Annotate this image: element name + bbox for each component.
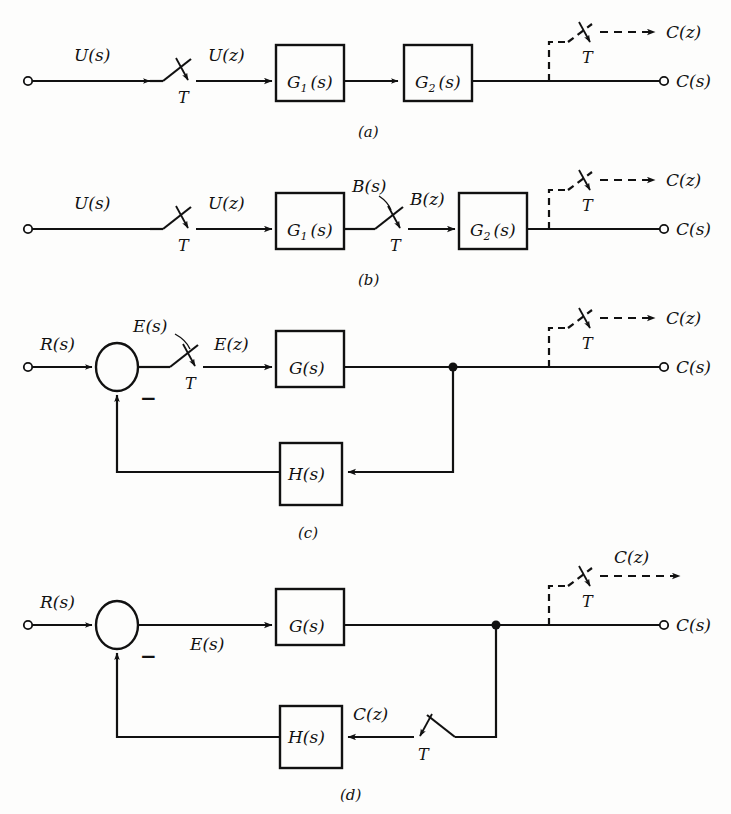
input-terminal-b [24,225,32,233]
output-terminal-a [660,77,668,85]
input-terminal-d [24,621,32,629]
label-output-cz-b: C(z) [666,170,701,190]
label-output-cs-c: C(s) [676,357,711,377]
block-g1-a-main: G [287,72,301,92]
block-g1-a: G1(s) [276,45,344,101]
block-g1-b-main: G [287,220,301,240]
label-fict-sampler-T-b: T [582,196,594,215]
label-input-d: R(s) [39,592,75,612]
block-diagram-svg: U(s) T U(z) G1(s) G2(s) C(s) [0,0,731,814]
feedback-path-c [348,367,453,472]
block-g2-a-arg: (s) [439,72,461,92]
output-terminal-d [660,621,668,629]
feedback-return-c [117,430,280,472]
label-feedback-sampled-d: C(z) [353,704,388,724]
label-inter-before-b: B(s) [351,176,386,196]
block-g2-a-sub: 2 [428,82,436,95]
block-h-d-label: H(s) [287,727,325,747]
svg-text:G1(s): G1(s) [287,220,333,243]
diagram-c: R(s) − T E(s) E(z) G(s) C(s) [24,308,711,542]
diagram-d: R(s) − E(s) G(s) C(s) T C(z) H(s) [24,547,711,804]
summing-junction-c: − [96,343,157,430]
label-input-b: U(s) [74,193,110,213]
diagram-b: U(s) T U(z) G1(s) T B(s) B(z) [24,170,711,289]
caption-c: (c) [298,524,318,542]
label-output-cz-a: C(z) [666,22,701,42]
figure-container: U(s) T U(z) G1(s) G2(s) C(s) [0,0,731,814]
diagram-a: U(s) T U(z) G1(s) G2(s) C(s) [24,22,711,141]
block-g-c-label: G(s) [289,358,325,378]
input-terminal-a [24,77,32,85]
caption-d: (d) [340,786,361,804]
label-inter-after-b: B(z) [409,189,445,209]
label-output-cs-b: C(s) [676,219,711,239]
label-sampler-T-c: T [185,374,197,393]
block-g2-a-main: G [415,72,429,92]
label-sampled-b: U(z) [208,193,245,213]
block-g2-b-sub: 2 [483,230,491,243]
label-inter-sampler-T-b: T [390,236,402,255]
block-h-c: H(s) [280,443,342,505]
block-g2-b: G2(s) [459,193,527,249]
leader-line-es-c [175,334,190,349]
input-terminal-c [24,363,32,371]
fictitious-sampler-d: T C(z) [549,547,680,625]
sampler-b: T [150,206,191,255]
label-input-c: R(s) [39,334,75,354]
block-g-c: G(s) [276,331,344,387]
output-terminal-c [660,363,668,371]
label-sampler-T-b: T [178,236,190,255]
block-g1-b-sub: 1 [301,230,308,243]
svg-text:G1(s): G1(s) [287,72,333,95]
summing-junction-d: − [96,601,157,688]
summer-sign-d: − [140,644,157,668]
label-fict-sampler-T-a: T [582,48,594,67]
caption-a: (a) [358,123,379,141]
label-sampled-error-c: E(z) [213,334,249,354]
label-input-a: U(s) [74,45,110,65]
block-g2-b-main: G [470,220,484,240]
label-fict-sampler-T-d: T [582,592,594,611]
block-g2-b-arg: (s) [494,220,516,240]
sampler-c: T E(s) [132,316,198,393]
label-error-d: E(s) [189,634,224,654]
feedback-sampler-d: T [418,714,455,764]
block-g-d-label: G(s) [289,616,325,636]
block-g1-a-arg: (s) [311,72,333,92]
block-g-d: G(s) [276,589,344,645]
summer-sign-c: − [140,386,157,410]
label-output-cz-d: C(z) [614,547,649,567]
block-h-c-label: H(s) [287,464,325,484]
block-g2-a: G2(s) [404,45,472,101]
block-g1-b: G1(s) [276,193,344,249]
block-g1-a-sub: 1 [301,82,308,95]
label-error-c: E(s) [132,316,167,336]
label-feedback-sampler-T-d: T [418,745,430,764]
inter-sampler-b: T B(s) B(z) [344,176,445,255]
label-output-cz-c: C(z) [666,308,701,328]
caption-b: (b) [358,271,379,289]
sampler-a: T [150,58,191,107]
svg-text:G2(s): G2(s) [415,72,461,95]
label-fict-sampler-T-c: T [582,334,594,353]
label-output-cs-d: C(s) [676,615,711,635]
label-sampler-T-a: T [178,88,190,107]
label-output-cs-a: C(s) [676,71,711,91]
feedback-path-d [455,625,496,737]
svg-text:G2(s): G2(s) [470,220,516,243]
output-terminal-b [660,225,668,233]
feedback-return-d [117,688,280,737]
block-g1-b-arg: (s) [311,220,333,240]
block-h-d: H(s) [280,706,342,768]
label-sampled-a: U(z) [208,45,245,65]
